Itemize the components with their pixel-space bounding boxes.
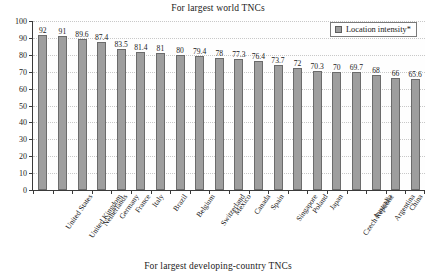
- x-axis-tick: [405, 190, 406, 194]
- bar: 92: [38, 35, 47, 190]
- bar-value-label: 65.6: [409, 70, 422, 79]
- bar-value-label: 69.7: [350, 63, 363, 72]
- y-axis-tick: [29, 122, 33, 123]
- x-axis-label: Belgium: [195, 193, 216, 219]
- x-axis-tick: [229, 190, 230, 194]
- x-axis-tick: [53, 190, 54, 194]
- x-axis-label: Brazil: [172, 193, 189, 213]
- bar-value-label: 76.4: [252, 52, 265, 61]
- bar: 83.5: [117, 49, 126, 190]
- x-axis-tick: [170, 190, 171, 194]
- gridline: [33, 72, 425, 74]
- bar-value-label: 77.3: [232, 50, 245, 59]
- bar-value-label: 87.4: [95, 33, 108, 42]
- bar: 76.4: [254, 61, 263, 190]
- bar: 77.3: [234, 59, 243, 190]
- bar-value-label: 91: [59, 27, 67, 36]
- bar-value-label: 78: [215, 49, 223, 58]
- bar-value-label: 81: [157, 44, 165, 53]
- y-axis-label: 70: [19, 67, 27, 76]
- y-axis-label: 100: [15, 17, 27, 26]
- bar-value-label: 70: [333, 63, 341, 72]
- y-axis-label: 10: [19, 169, 27, 178]
- x-axis-tick: [72, 190, 73, 194]
- y-axis-label: 20: [19, 152, 27, 161]
- y-axis-tick: [29, 139, 33, 140]
- y-axis-tick: [29, 89, 33, 90]
- y-axis-label: 50: [19, 101, 27, 110]
- bar: 87.4: [97, 42, 106, 190]
- gridline: [33, 139, 425, 141]
- bar-value-label: 70.3: [311, 62, 324, 71]
- bar-value-label: 72: [294, 59, 302, 68]
- chart-title-top: For largest world TNCs: [0, 3, 436, 13]
- y-axis-tick: [29, 21, 33, 22]
- y-axis-label: 90: [19, 33, 27, 42]
- legend-label: Location intensity*: [346, 25, 411, 34]
- bar: 81: [156, 53, 165, 190]
- x-axis-tick: [424, 190, 425, 194]
- bar: 78: [215, 58, 224, 190]
- bar: 81.4: [136, 52, 145, 190]
- gridline: [33, 156, 425, 158]
- x-axis-tick: [249, 190, 250, 194]
- bar: 72: [293, 68, 302, 190]
- x-axis-label: Spain: [270, 193, 286, 212]
- bar-value-label: 73.7: [271, 56, 284, 65]
- chart-legend: Location intensity*: [330, 22, 417, 37]
- x-axis-tick: [347, 190, 348, 194]
- plot-area: 1009080706050403020100 929189.687.483.58…: [33, 21, 425, 190]
- x-axis-tick: [366, 190, 367, 194]
- bar: 70.3: [313, 71, 322, 190]
- y-axis-tick: [29, 72, 33, 73]
- x-axis-tick: [190, 190, 191, 194]
- gridline: [33, 38, 425, 40]
- chart-figure: For largest world TNCs 10090807060504030…: [0, 0, 436, 277]
- bar-value-label: 89.6: [75, 30, 88, 39]
- bar: 80: [176, 55, 185, 190]
- bar-value-label: 80: [176, 46, 184, 55]
- x-axis-label: United States: [64, 193, 94, 231]
- x-axis-label: Italy: [151, 193, 165, 209]
- x-axis-tick: [151, 190, 152, 194]
- bar: 66: [391, 78, 400, 190]
- chart-title-bottom: For largest developing-country TNCs: [0, 261, 436, 271]
- bar-value-label: 92: [39, 26, 47, 35]
- bar-value-label: 68: [372, 66, 380, 75]
- bar: 79.4: [195, 56, 204, 190]
- y-axis-label: 40: [19, 118, 27, 127]
- y-axis-label: 30: [19, 135, 27, 144]
- x-axis-tick: [327, 190, 328, 194]
- x-axis-tick: [92, 190, 93, 194]
- bar-value-label: 79.4: [193, 47, 206, 56]
- bar-value-label: 81.4: [134, 43, 147, 52]
- bar-value-label: 83.5: [115, 40, 128, 49]
- y-axis-label: 60: [19, 84, 27, 93]
- y-axis-tick: [29, 156, 33, 157]
- x-axis-tick: [307, 190, 308, 194]
- x-axis-tick: [111, 190, 112, 194]
- bar: 89.6: [78, 39, 87, 190]
- bar: 73.7: [274, 65, 283, 190]
- y-axis-label: 0: [23, 186, 27, 195]
- y-axis-tick: [29, 55, 33, 56]
- gridline: [33, 89, 425, 91]
- bar: 69.7: [352, 72, 361, 190]
- x-axis-tick: [288, 190, 289, 194]
- bar: 91: [58, 36, 67, 190]
- bar-value-label: 66: [392, 69, 400, 78]
- bar: 68: [372, 75, 381, 190]
- x-axis-label: Australia: [372, 193, 394, 220]
- y-axis-tick: [29, 38, 33, 39]
- gridline: [33, 106, 425, 108]
- x-axis-label: Japan: [329, 193, 345, 212]
- x-axis-tick: [33, 190, 34, 194]
- bar: 65.6: [411, 79, 420, 190]
- gridline: [33, 122, 425, 124]
- gridline: [33, 173, 425, 175]
- y-axis-tick: [29, 173, 33, 174]
- gridline: [33, 55, 425, 57]
- y-axis-label: 80: [19, 50, 27, 59]
- bar: 70: [332, 72, 341, 190]
- y-axis-tick: [29, 106, 33, 107]
